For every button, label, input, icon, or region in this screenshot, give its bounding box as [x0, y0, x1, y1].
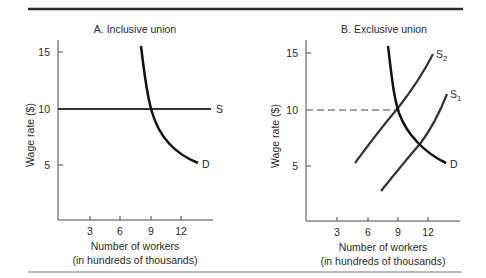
x-tick-label: 6	[365, 226, 371, 238]
panel-b-y-label: Wage rate ($)	[269, 104, 281, 168]
panel-a-inclusive-union: A. Inclusive union 15 10 5 Wage rate ($)…	[24, 23, 223, 266]
x-tick-label: 3	[334, 226, 340, 238]
y-tick-label-15: 15	[38, 46, 50, 58]
panel-a-supply-label: S	[216, 103, 223, 115]
x-tick-label: 9	[148, 225, 154, 237]
y-tick-label-5: 5	[44, 159, 50, 171]
y-tick-label-10: 10	[38, 103, 50, 115]
panel-b-x-label-units: (in hundreds of thousands)	[321, 255, 446, 267]
x-tick-label: 12	[422, 226, 434, 238]
panel-b-exclusive-union: B. Exclusive union 15 10 5 Wage rate ($)…	[269, 23, 461, 267]
panel-b-demand-curve	[388, 46, 446, 163]
panel-b-x-label: Number of workers	[339, 241, 428, 253]
x-tick-label: 12	[175, 225, 187, 237]
x-tick-label: 9	[395, 226, 401, 238]
y-tick-label-15: 15	[286, 47, 298, 59]
panel-a-demand-label: D	[202, 158, 210, 170]
panel-a-title: A. Inclusive union	[94, 23, 176, 35]
figure: A. Inclusive union 15 10 5 Wage rate ($)…	[0, 0, 486, 278]
panel-b-supply-s1-curve	[381, 94, 447, 191]
panel-b-demand-label: D	[450, 158, 458, 170]
panel-b-supply-s1-label: S1	[450, 88, 461, 103]
y-tick-label-10: 10	[286, 104, 298, 116]
y-tick-label-5: 5	[292, 160, 298, 172]
panel-a-demand-curve	[141, 46, 198, 163]
panel-b-title: B. Exclusive union	[341, 23, 427, 35]
panel-a-y-label: Wage rate ($)	[24, 103, 36, 167]
panel-b-supply-s2-label: S2	[436, 48, 447, 63]
x-tick-label: 3	[87, 225, 93, 237]
panel-a-x-label: Number of workers	[91, 240, 180, 252]
x-tick-label: 6	[117, 225, 123, 237]
panel-a-x-label-units: (in hundreds of thousands)	[73, 254, 198, 266]
